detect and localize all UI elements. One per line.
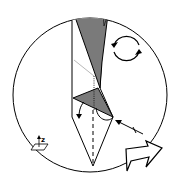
axis-label: z — [41, 136, 45, 144]
hollow-arrow-icon — [126, 141, 162, 171]
paper-model — [72, 14, 113, 166]
origami-diagram: z — [0, 0, 179, 186]
push-arrow-icon — [115, 120, 143, 134]
rotate-icon — [111, 36, 142, 60]
axis-plane-icon: z — [31, 135, 48, 150]
